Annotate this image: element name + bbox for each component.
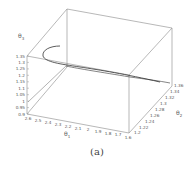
svg-text:1.36: 1.36: [174, 83, 184, 88]
svg-text:1.9: 1.9: [95, 129, 102, 134]
svg-text:1.8: 1.8: [105, 131, 112, 136]
svg-text:1.3: 1.3: [18, 60, 25, 65]
svg-text:1.6: 1.6: [125, 135, 132, 140]
svg-text:2.6: 2.6: [25, 116, 32, 121]
svg-text:1.7: 1.7: [115, 132, 122, 137]
svg-text:1.24: 1.24: [145, 119, 155, 124]
svg-text:2: 2: [87, 127, 90, 132]
svg-text:1.32: 1.32: [165, 95, 175, 100]
svg-text:2.4: 2.4: [45, 120, 52, 125]
svg-text:1.28: 1.28: [155, 107, 165, 112]
y-axis-label: θ2: [176, 109, 183, 118]
trajectory-curve: [28, 46, 170, 102]
z-axis-ticks: 1.35 1.3 1.25 1.2 1.15 1.1 1.05 1 0.95 0…: [16, 54, 26, 117]
svg-text:1.05: 1.05: [16, 92, 26, 97]
svg-text:1.25: 1.25: [16, 66, 26, 71]
figure-3d-plot: 1.35 1.3 1.25 1.2 1.15 1.1 1.05 1 0.95 0…: [0, 0, 194, 171]
svg-text:1.22: 1.22: [139, 125, 149, 130]
svg-text:1.2: 1.2: [18, 73, 25, 78]
svg-text:1.3: 1.3: [160, 101, 167, 106]
figure-caption: (a): [0, 146, 194, 157]
z-axis-label: θ3: [18, 32, 25, 41]
svg-text:1.35: 1.35: [16, 54, 26, 59]
x-axis-ticks: 2.6 2.5 2.4 2.3 2.2 2.1 2 1.9 1.8 1.7 1.…: [25, 116, 132, 140]
svg-text:1.2: 1.2: [134, 130, 141, 135]
svg-text:1.1: 1.1: [18, 86, 25, 91]
svg-text:0.95: 0.95: [16, 105, 26, 110]
x-axis-label: θ1: [64, 130, 71, 139]
svg-text:2.1: 2.1: [75, 126, 82, 131]
svg-text:2.2: 2.2: [65, 124, 72, 129]
svg-text:2.3: 2.3: [55, 122, 62, 127]
svg-text:2.5: 2.5: [35, 118, 42, 123]
svg-text:1: 1: [22, 99, 25, 104]
svg-text:1.26: 1.26: [150, 113, 160, 118]
svg-text:1.34: 1.34: [170, 89, 180, 94]
svg-text:1.15: 1.15: [16, 79, 26, 84]
